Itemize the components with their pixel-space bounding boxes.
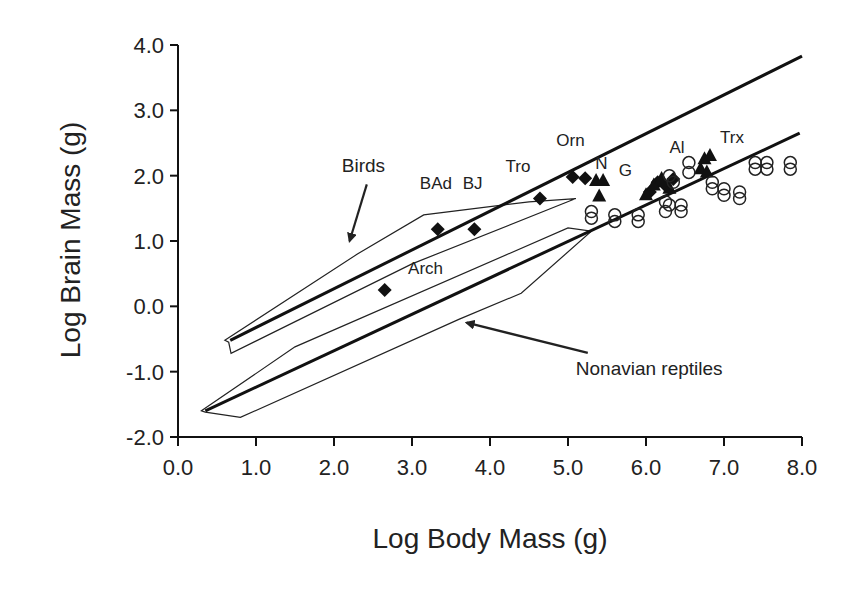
x-tick-label: 7.0: [709, 455, 740, 480]
x-tick-label: 4.0: [475, 455, 506, 480]
annotation-label: BAd: [420, 174, 452, 193]
y-tick-label: 1.0: [133, 229, 164, 254]
x-tick-label: 6.0: [631, 455, 662, 480]
annotation-label: Arch: [408, 259, 443, 278]
y-tick-label: 0.0: [133, 294, 164, 319]
x-tick-label: 1.0: [241, 455, 272, 480]
chart: -2.0-1.00.01.02.03.04.00.01.02.03.04.05.…: [0, 0, 860, 590]
annotation-label: Nonavian reptiles: [576, 358, 723, 379]
axes: [170, 45, 802, 446]
x-tick-label: 0.0: [163, 455, 194, 480]
annotation-label: Tro: [506, 157, 531, 176]
x-axis-title: Log Body Mass (g): [373, 523, 608, 554]
x-tick-label: 8.0: [787, 455, 818, 480]
annotation-label: Orn: [556, 131, 584, 150]
annotation-label: Birds: [342, 155, 385, 176]
y-tick-label: -1.0: [126, 360, 164, 385]
diamond-marker: [467, 222, 481, 236]
annotation-label: Al: [669, 138, 684, 157]
diamond-marker: [378, 283, 392, 297]
annotation-label: N: [595, 154, 607, 173]
y-axis-title: Log Brain Mass (g): [55, 122, 86, 359]
annotation-label: BJ: [463, 174, 483, 193]
envelope-polygon: [225, 199, 576, 354]
y-tick-label: -2.0: [126, 425, 164, 450]
annotation-label: G: [619, 161, 632, 180]
diamond-marker: [533, 192, 547, 206]
annotation-arrow: [350, 184, 367, 241]
y-tick-label: 3.0: [133, 98, 164, 123]
y-tick-label: 4.0: [133, 33, 164, 58]
x-tick-label: 3.0: [397, 455, 428, 480]
annotation-arrow: [467, 323, 588, 353]
triangle-marker: [592, 189, 606, 202]
x-tick-label: 5.0: [553, 455, 584, 480]
regression-line: [230, 56, 802, 340]
y-tick-label: 2.0: [133, 164, 164, 189]
annotation-label: Trx: [720, 128, 744, 147]
diamond-marker: [578, 171, 592, 185]
x-tick-label: 2.0: [319, 455, 350, 480]
